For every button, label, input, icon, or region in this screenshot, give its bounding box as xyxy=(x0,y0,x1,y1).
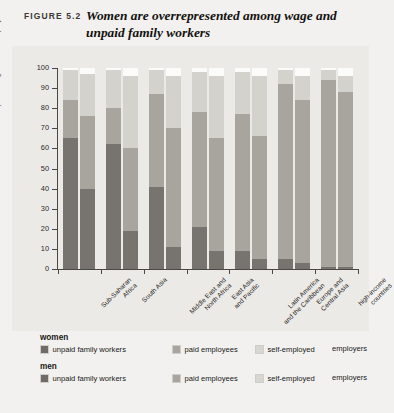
y-axis-tick: 60 xyxy=(52,148,57,149)
y-axis-tick: 100 xyxy=(52,68,57,69)
legend-heading-women: women xyxy=(40,333,68,342)
bar-segment-self xyxy=(166,76,181,128)
bar-segment-paid xyxy=(166,128,181,247)
bar-segment-self xyxy=(338,76,353,92)
y-axis-title: percentage of total employment xyxy=(0,2,1,106)
legend-swatch-unpaid xyxy=(40,345,49,354)
x-axis-line xyxy=(57,269,359,270)
legend-item-self-women[interactable]: self-employed xyxy=(255,345,315,354)
x-axis-tick xyxy=(58,269,59,274)
bar-men-2[interactable] xyxy=(166,68,181,269)
bar-men-5[interactable] xyxy=(295,68,310,269)
bar-segment-self xyxy=(235,72,250,114)
legend-label: self-employed xyxy=(268,375,315,383)
bar-segment-emp xyxy=(338,68,353,76)
x-axis-label-0: Sub-SaharanAfrica xyxy=(100,276,139,315)
legend-item-paid-men[interactable]: paid employees xyxy=(172,374,238,383)
bar-segment-paid xyxy=(209,138,224,251)
bar-segment-paid xyxy=(149,94,164,186)
legend-label: paid employees xyxy=(185,346,238,354)
bar-segment-unpaid xyxy=(192,227,207,269)
bar-women-0[interactable] xyxy=(63,68,78,269)
bar-segment-paid xyxy=(252,136,267,259)
legend-swatch-paid xyxy=(172,374,181,383)
legend-item-paid-women[interactable]: paid employees xyxy=(172,345,238,354)
bar-women-1[interactable] xyxy=(106,68,121,269)
figure-number: FIGURE 5.2 xyxy=(24,11,81,21)
bar-segment-paid xyxy=(106,108,121,144)
bar-women-6[interactable] xyxy=(321,68,336,269)
legend-swatch-unpaid xyxy=(40,374,49,383)
legend-heading-men: men xyxy=(40,362,57,371)
bar-segment-unpaid xyxy=(278,259,293,269)
y-axis-tick: 20 xyxy=(52,229,57,230)
bar-segment-unpaid xyxy=(252,259,267,269)
bar-men-3[interactable] xyxy=(209,68,224,269)
x-axis-tick xyxy=(101,269,102,274)
bar-segment-self xyxy=(192,72,207,112)
legend-label: paid employees xyxy=(185,375,238,383)
y-axis-tick: 30 xyxy=(52,209,57,210)
bar-segment-unpaid xyxy=(106,144,121,269)
bar-segment-self xyxy=(278,70,293,84)
legend-item-emp-men[interactable]: employers xyxy=(332,374,367,382)
legend-label: self-employed xyxy=(268,346,315,354)
bar-segment-paid xyxy=(80,116,95,188)
bar-segment-unpaid xyxy=(321,267,336,269)
bar-segment-paid xyxy=(63,100,78,138)
bar-men-4[interactable] xyxy=(252,68,267,269)
legend-swatch-self xyxy=(255,345,264,354)
bar-segment-unpaid xyxy=(149,187,164,269)
bar-segment-self xyxy=(106,70,121,108)
legend-swatch-self xyxy=(255,374,264,383)
bar-men-1[interactable] xyxy=(123,68,138,269)
bar-men-0[interactable] xyxy=(80,68,95,269)
bar-segment-paid xyxy=(123,148,138,230)
bar-women-4[interactable] xyxy=(235,68,250,269)
legend-label: employers xyxy=(332,345,367,353)
y-axis-tick-label: 50 xyxy=(41,165,49,172)
bar-segment-unpaid xyxy=(338,267,353,269)
legend-item-unpaid-women[interactable]: unpaid family workers xyxy=(40,345,126,354)
bar-segment-emp xyxy=(252,68,267,76)
bar-segment-unpaid xyxy=(295,263,310,269)
x-axis-label-6: high-incomecountries xyxy=(356,276,393,313)
x-axis-tick xyxy=(272,269,273,274)
bar-segment-emp xyxy=(123,68,138,76)
bar-segment-self xyxy=(123,76,138,148)
bar-segment-paid xyxy=(295,100,310,263)
chart-legend: womenunpaid family workerspaid employees… xyxy=(12,333,369,399)
legend-label: employers xyxy=(332,374,367,382)
bar-segment-paid xyxy=(235,114,250,251)
bar-segment-unpaid xyxy=(123,231,138,269)
y-axis-tick: 10 xyxy=(52,249,57,250)
bar-women-2[interactable] xyxy=(149,68,164,269)
bar-segment-emp xyxy=(166,68,181,76)
x-axis-tick xyxy=(187,269,188,274)
x-axis-label-1: South Asia xyxy=(141,276,169,304)
bar-segment-self xyxy=(209,76,224,138)
y-axis-tick-label: 100 xyxy=(37,64,49,71)
legend-label: unpaid family workers xyxy=(53,346,126,354)
legend-item-self-men[interactable]: self-employed xyxy=(255,374,315,383)
bar-segment-self xyxy=(63,70,78,100)
y-axis-tick-label: 30 xyxy=(41,205,49,212)
y-axis-tick-label: 0 xyxy=(45,265,49,272)
bar-segment-paid xyxy=(278,84,293,259)
bar-segment-unpaid xyxy=(235,251,250,269)
y-axis-tick-label: 20 xyxy=(41,225,49,232)
legend-item-emp-women[interactable]: employers xyxy=(332,345,367,353)
bar-segment-self xyxy=(80,74,95,116)
bar-segment-emp xyxy=(295,68,310,76)
bar-men-6[interactable] xyxy=(338,68,353,269)
bar-women-5[interactable] xyxy=(278,68,293,269)
legend-item-unpaid-men[interactable]: unpaid family workers xyxy=(40,374,126,383)
y-axis-tick-label: 60 xyxy=(41,145,49,152)
x-axis-label-3: East Asiaand Pacific xyxy=(227,276,262,311)
y-axis-tick: 0 xyxy=(52,269,57,270)
bar-women-3[interactable] xyxy=(192,68,207,269)
plot-area xyxy=(58,68,358,269)
y-axis-tick-label: 90 xyxy=(41,84,49,91)
bar-segment-unpaid xyxy=(63,138,78,269)
